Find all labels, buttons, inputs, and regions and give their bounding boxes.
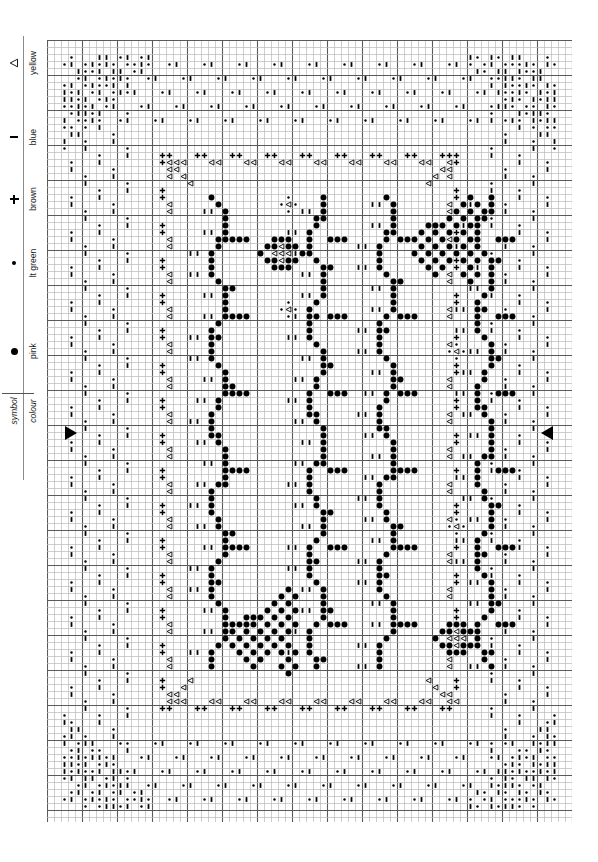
legend-header-colour: colour [22,400,44,422]
legend-colour-blue: blue [22,126,44,148]
legend: symbol colour pink lt green brown [0,0,44,862]
legend-entry-blue: blue [0,126,44,148]
chart-grid[interactable] [47,40,572,822]
legend-header-rule [2,393,34,394]
chart-page: symbol colour pink lt green brown [0,0,598,862]
legend-entry-brown: brown [0,188,44,210]
legend-entry-yellow: yellow [0,52,44,74]
legend-colour-brown: brown [22,188,44,210]
legend-colour-pink: pink [22,340,44,362]
stitch-symbols-canvas [47,40,572,822]
small-filled-circle-icon [4,252,24,274]
plus-sign-icon [4,188,24,210]
legend-entry-lt-green: lt green [0,252,44,274]
large-filled-circle-icon [4,340,24,362]
short-dash-icon [4,126,24,148]
legend-entry-pink: pink [0,340,44,362]
legend-colour-yellow: yellow [22,52,44,74]
hollow-triangle-icon [4,52,24,74]
centre-row-marker-left [65,426,77,440]
legend-colour-lt-green: lt green [22,252,44,274]
legend-header: symbol colour [0,400,44,422]
centre-row-marker-right [541,426,553,440]
